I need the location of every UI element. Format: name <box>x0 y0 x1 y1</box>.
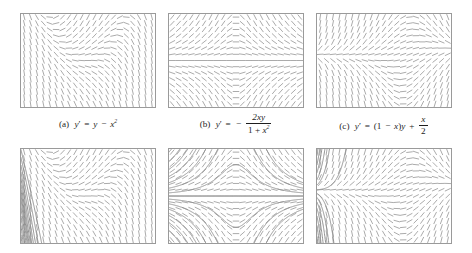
caption-a-rhs-y: y <box>93 119 97 129</box>
direction-field-figure: (a) y′ = y − x2 (b) y′ = − 2xy 1 + x2 (c… <box>0 0 472 253</box>
caption-a-prime: ′ <box>79 119 81 129</box>
caption-b-sign: − <box>235 119 243 129</box>
caption-b-prime: ′ <box>220 119 222 129</box>
caption-c-fraction: x 2 <box>419 115 428 136</box>
caption-c-minus: − <box>384 121 392 131</box>
panel-e-svg <box>169 149 303 243</box>
panel-a-field <box>20 13 156 108</box>
caption-c-open: (1 <box>374 121 382 131</box>
panel-f-curves <box>316 148 452 244</box>
panel-b-svg <box>169 14 303 107</box>
panel-c-svg <box>317 14 451 107</box>
caption-a-exponent: 2 <box>114 118 117 124</box>
caption-b-fraction: 2xy 1 + x2 <box>246 113 271 135</box>
panel-f-svg <box>317 149 451 243</box>
caption-b-label: (b) <box>200 119 211 129</box>
caption-c-numerator: x <box>419 115 428 125</box>
panel-a-svg <box>21 14 155 107</box>
caption-b: (b) y′ = − 2xy 1 + x2 <box>168 114 304 136</box>
panel-c-field <box>316 13 452 108</box>
caption-a: (a) y′ = y − x2 <box>20 118 156 129</box>
caption-b-denominator: 1 + x2 <box>246 123 271 135</box>
caption-c-vary: y <box>401 121 405 131</box>
caption-c: (c) y′ = (1 − x)y + x 2 <box>316 116 452 137</box>
panel-d-svg <box>21 149 155 243</box>
caption-c-eq: = <box>363 121 371 131</box>
caption-c-prime: ′ <box>359 121 361 131</box>
panel-b-field <box>168 13 304 108</box>
caption-c-plus: + <box>408 121 416 131</box>
panel-e-curves <box>168 148 304 244</box>
panel-d-curves <box>20 148 156 244</box>
caption-a-minus: − <box>100 119 108 129</box>
caption-b-numerator: 2xy <box>246 113 271 123</box>
caption-c-denominator: 2 <box>419 125 428 136</box>
caption-b-eq: = <box>224 119 232 129</box>
caption-c-label: (c) <box>339 121 349 131</box>
caption-a-label: (a) <box>59 119 69 129</box>
caption-a-eq: = <box>83 119 91 129</box>
